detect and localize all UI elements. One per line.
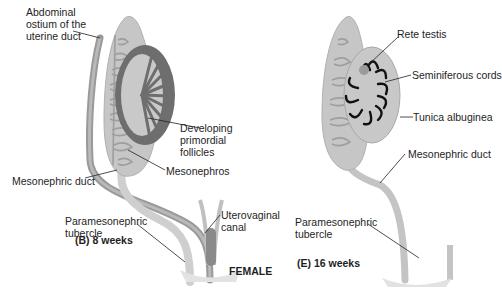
caption-panel-e: (E) 16 weeks bbox=[297, 257, 360, 269]
label-developing-follicles: Developing primordial follicles bbox=[180, 122, 233, 158]
label-uterovaginal-canal: Uterovaginal canal bbox=[221, 209, 280, 233]
label-mesonephros: Mesonephros bbox=[166, 165, 230, 177]
label-mesonephric-duct-e: Mesonephric duct bbox=[408, 148, 491, 160]
section-label-female: FEMALE bbox=[229, 265, 272, 277]
label-rete-testis: Rete testis bbox=[397, 28, 447, 40]
caption-panel-b: (B) 8 weeks bbox=[75, 234, 133, 246]
label-tunica-albuginea: Tunica albuginea bbox=[413, 111, 493, 123]
label-abdominal-ostium: Abdominal ostium of the uterine duct bbox=[26, 6, 86, 42]
label-seminiferous-cords: Seminiferous cords bbox=[412, 69, 502, 81]
label-paramesonephric-tubercle-e: Paramesonephric tubercle bbox=[295, 216, 377, 240]
label-mesonephric-duct-b: Mesonephric duct bbox=[12, 175, 95, 187]
